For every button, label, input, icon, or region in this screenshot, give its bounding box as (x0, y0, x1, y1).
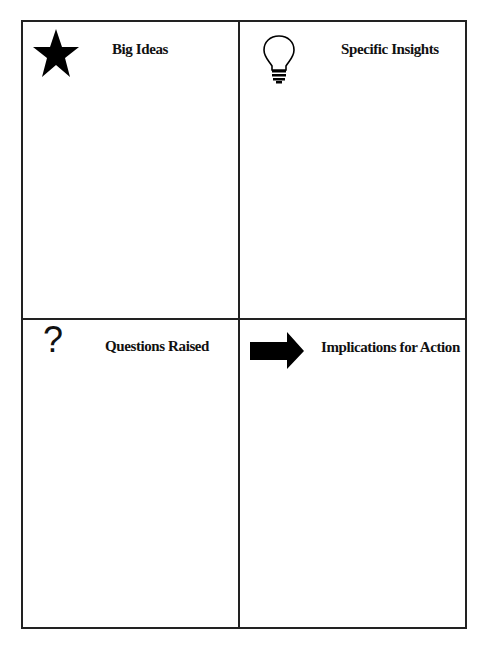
quadrant-label: Questions Raised (105, 338, 209, 355)
question-mark-icon: ? (43, 318, 63, 362)
quadrant-label: Implications for Action (321, 339, 460, 356)
quadrant-questions-raised: ? Questions Raised (21, 318, 237, 629)
quadrant-label: Specific Insights (341, 41, 439, 58)
quadrant-implications-for-action: Implications for Action (237, 318, 467, 629)
quadrant-label: Big Ideas (112, 41, 168, 58)
quadrant-big-ideas: Big Ideas (21, 20, 237, 318)
star-icon (32, 28, 80, 84)
quadrant-specific-insights: Specific Insights (237, 20, 467, 318)
lightbulb-icon (262, 34, 296, 88)
arrow-right-icon (249, 332, 305, 374)
